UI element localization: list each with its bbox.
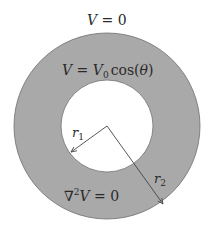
annulus-diagram: V = 0 V = V0cos(θ) r1 r2 ∇2V = 0 — [0, 0, 209, 232]
laplace-equation-label: ∇2V = 0 — [64, 187, 119, 204]
outer-boundary-label: V = 0 — [87, 12, 127, 28]
